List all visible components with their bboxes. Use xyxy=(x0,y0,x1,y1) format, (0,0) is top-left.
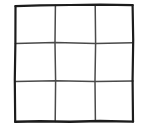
cell-r3c2[interactable] xyxy=(55,81,95,122)
cell-r2c2[interactable] xyxy=(55,43,95,81)
cell-r3c1[interactable] xyxy=(15,81,55,122)
cell-r3c3[interactable] xyxy=(95,81,133,122)
drawing-canvas xyxy=(0,0,148,133)
cell-r1c1[interactable] xyxy=(15,5,55,43)
cell-r1c3[interactable] xyxy=(95,5,133,43)
cell-r1c2[interactable] xyxy=(55,5,95,43)
cell-r2c1[interactable] xyxy=(15,43,55,81)
cell-r2c3[interactable] xyxy=(95,43,133,81)
